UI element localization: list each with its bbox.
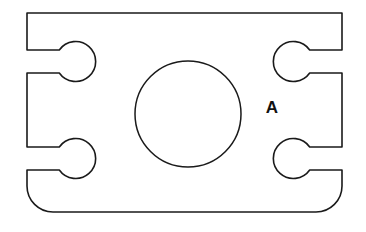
label-a: A xyxy=(266,98,278,117)
technical-drawing-canvas: A xyxy=(0,0,366,232)
center-hole xyxy=(135,61,241,167)
